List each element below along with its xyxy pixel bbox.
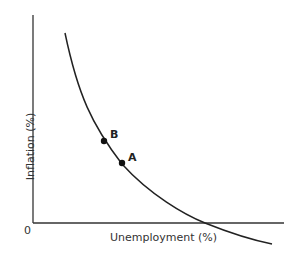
origin-label: 0 bbox=[24, 224, 31, 237]
phillips-curve-diagram bbox=[0, 0, 298, 258]
point-b-label: B bbox=[110, 128, 118, 141]
point-a-label: A bbox=[128, 151, 137, 164]
point-a-marker bbox=[119, 160, 125, 166]
point-b-marker bbox=[101, 138, 107, 144]
phillips-curve bbox=[65, 33, 272, 244]
y-axis-label: Inflation (%) bbox=[24, 107, 37, 187]
x-axis-label: Unemployment (%) bbox=[110, 231, 217, 244]
